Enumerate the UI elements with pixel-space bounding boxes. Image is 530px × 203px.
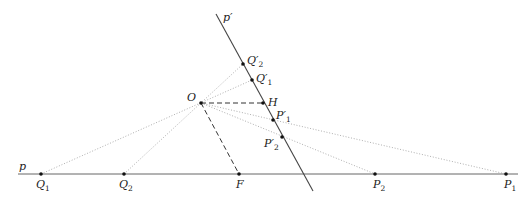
label-q2: Q2 bbox=[119, 178, 133, 193]
point-p2 bbox=[373, 172, 377, 176]
point-p1 bbox=[504, 172, 508, 176]
point-q1 bbox=[39, 172, 43, 176]
dotted-q2-q2prime bbox=[124, 64, 243, 174]
point-q2 bbox=[122, 172, 126, 176]
geometry-diagram: p p′ O H F Q1 Q2 P2 P1 Q′2 Q′1 P′1 P′2 bbox=[0, 0, 530, 203]
point-q1-prime bbox=[250, 78, 254, 82]
label-f: F bbox=[235, 178, 244, 191]
label-q2-prime: Q′2 bbox=[247, 54, 264, 69]
label-o: O bbox=[187, 91, 196, 104]
label-line-p: p bbox=[19, 160, 26, 173]
label-p2-prime: P′2 bbox=[263, 137, 279, 152]
point-p2-prime bbox=[280, 135, 284, 139]
point-o bbox=[199, 101, 203, 105]
point-h bbox=[261, 101, 265, 105]
label-q1-prime: Q′1 bbox=[256, 72, 272, 87]
dotted-q1-q1prime bbox=[41, 80, 252, 174]
dotted-o-p1 bbox=[201, 103, 506, 174]
label-q1: Q1 bbox=[36, 178, 50, 193]
point-f bbox=[237, 172, 241, 176]
dashed-o-f bbox=[201, 103, 239, 174]
point-p1-prime bbox=[271, 118, 275, 122]
label-p1: P1 bbox=[503, 178, 516, 193]
point-q2-prime bbox=[241, 62, 245, 66]
label-line-p-prime: p′ bbox=[223, 11, 233, 24]
dotted-o-p2 bbox=[201, 103, 375, 174]
label-p2: P2 bbox=[372, 178, 385, 193]
label-h: H bbox=[267, 96, 278, 109]
label-p1-prime: P′1 bbox=[275, 109, 291, 124]
